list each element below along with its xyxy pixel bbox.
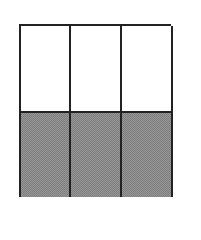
grid-cell-r2-c2-shaded [71,113,122,197]
fraction-grid [19,24,171,197]
grid-cell-r1-c1 [21,26,71,113]
grid-cell-r1-c2 [71,26,122,113]
grid-cell-r1-c3 [122,26,173,113]
grid-cell-r2-c1-shaded [21,113,71,197]
grid-cell-r2-c3-shaded [122,113,173,197]
